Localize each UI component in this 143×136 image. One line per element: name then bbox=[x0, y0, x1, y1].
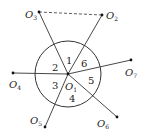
label-o5: O5 bbox=[30, 115, 42, 127]
point-o1-dot bbox=[67, 73, 70, 76]
point-o7-dot bbox=[130, 59, 133, 62]
label-o6: O6 bbox=[97, 118, 109, 130]
point-o4-dot bbox=[12, 72, 15, 75]
region-3: 3 bbox=[52, 80, 58, 91]
segment-o1-o7 bbox=[68, 60, 131, 74]
region-1: 1 bbox=[66, 55, 72, 66]
point-o5-dot bbox=[44, 126, 47, 129]
point-o6-dot bbox=[116, 116, 119, 119]
label-o3: O3 bbox=[25, 9, 37, 21]
region-6: 6 bbox=[81, 58, 87, 69]
region-2: 2 bbox=[52, 62, 58, 73]
label-o7: O7 bbox=[125, 67, 137, 79]
point-o2-dot bbox=[101, 14, 104, 17]
label-o4: O4 bbox=[9, 79, 21, 91]
dashed-segment-o3-o2 bbox=[39, 12, 102, 15]
label-o1: O1 bbox=[65, 81, 77, 93]
segment-o1-o4 bbox=[13, 73, 68, 74]
geometry-diagram: O3 O2 O4 O7 O5 O6 O1 1 2 3 4 5 6 bbox=[0, 0, 143, 136]
point-o3-dot bbox=[38, 11, 41, 14]
region-5: 5 bbox=[88, 75, 94, 86]
region-4: 4 bbox=[69, 93, 75, 104]
label-o2: O2 bbox=[106, 10, 118, 22]
